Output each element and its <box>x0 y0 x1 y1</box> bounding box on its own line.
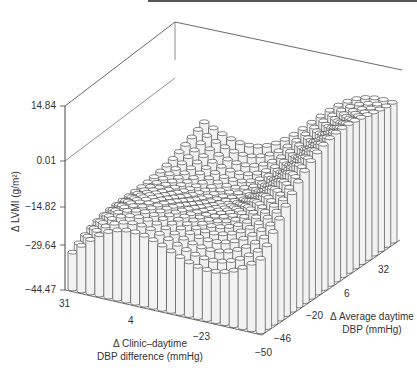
y-tick-label: 32 <box>378 264 389 276</box>
bar <box>95 233 104 297</box>
bar <box>122 228 131 303</box>
y-tick-label: −20 <box>306 310 323 322</box>
bar <box>158 243 167 311</box>
bar <box>77 243 86 293</box>
bar <box>104 229 113 299</box>
bar <box>229 268 238 328</box>
bar <box>238 265 247 329</box>
y-tick-label: 6 <box>344 288 350 300</box>
y-tick-label: −46 <box>274 333 291 345</box>
z-tick-label: −14.82 <box>12 201 56 213</box>
bar <box>256 256 265 334</box>
z-tick-label: −44.47 <box>12 284 56 296</box>
y-axis-title: Δ Average daytime DBP (mmHg) <box>327 310 417 336</box>
x-axis-title-line2: DBP difference (mmHg) <box>80 350 220 363</box>
bar <box>166 249 175 314</box>
y-axis-title-line1: Δ Average daytime <box>327 310 417 323</box>
y-axis-title-line2: DBP (mmHg) <box>327 323 417 336</box>
bar <box>68 250 77 291</box>
bar <box>149 238 158 310</box>
bar <box>175 255 184 316</box>
x-tick-label: 31 <box>59 298 70 310</box>
x-axis-title: Δ Clinic–daytime DBP difference (mmHg) <box>80 337 220 363</box>
bar <box>247 261 256 332</box>
x-tick-label: 4 <box>128 315 134 327</box>
z-tick-label: −29.64 <box>12 240 56 252</box>
bar <box>184 260 193 318</box>
bar <box>86 237 95 295</box>
z-tick-label: 0.01 <box>12 155 56 167</box>
bar <box>211 269 220 323</box>
bar <box>202 267 211 321</box>
z-tick-label: 14.84 <box>12 100 56 112</box>
bar <box>193 264 202 319</box>
bar <box>113 228 122 301</box>
x-axis-title-line1: Δ Clinic–daytime <box>80 337 220 350</box>
bar <box>220 270 229 326</box>
x-tick-label: −50 <box>255 347 272 359</box>
bar <box>131 230 140 305</box>
bar <box>140 233 149 307</box>
